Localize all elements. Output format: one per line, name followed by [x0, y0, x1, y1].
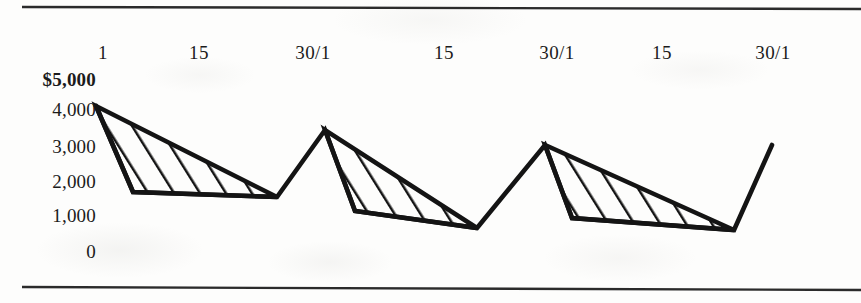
- y-tick-label-5000: $5,000: [16, 69, 96, 91]
- y-tick-label-1000: 1,000: [16, 205, 96, 227]
- y-tick-label-4000: 4,000: [16, 99, 96, 121]
- x-tick-label-2: 15: [189, 42, 209, 64]
- figure-container: 1 15 30/1 15 30/1 15 30/1 $5,000 4,000 3…: [0, 0, 861, 303]
- sawtooth-chart: [0, 0, 861, 303]
- bottom-rule: [22, 287, 861, 290]
- x-tick-label-4: 15: [434, 42, 454, 64]
- y-tick-label-2000: 2,000: [16, 171, 96, 193]
- top-rule: [22, 7, 861, 9]
- x-tick-label-5: 30/1: [539, 42, 574, 64]
- x-tick-label-3: 30/1: [295, 42, 330, 64]
- y-tick-label-3000: 3,000: [16, 136, 96, 158]
- x-tick-label-7: 30/1: [755, 42, 790, 64]
- x-tick-label-1: 1: [98, 42, 108, 64]
- y-tick-label-0: 0: [16, 241, 96, 263]
- x-tick-label-6: 15: [652, 42, 672, 64]
